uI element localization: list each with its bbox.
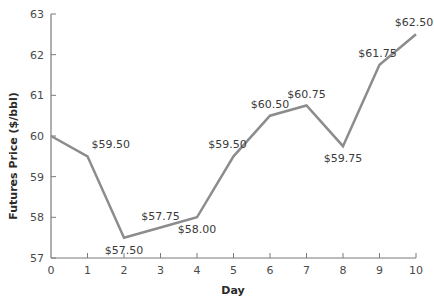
x-tick-label: 2 xyxy=(121,264,128,277)
data-point-label: $59.50 xyxy=(208,138,247,151)
y-tick-label: 59 xyxy=(30,171,44,184)
data-point-label: $58.00 xyxy=(178,223,217,236)
data-point-label: $60.75 xyxy=(287,88,326,101)
x-tick-label: 6 xyxy=(267,264,274,277)
data-point-label: $57.75 xyxy=(141,210,180,223)
data-point-label: $61.75 xyxy=(358,47,397,60)
x-tick-label: 3 xyxy=(157,264,164,277)
y-tick-label: 62 xyxy=(30,49,44,62)
x-tick-label: 9 xyxy=(376,264,383,277)
x-tick-label: 0 xyxy=(48,264,55,277)
y-tick-label: 57 xyxy=(30,252,44,265)
x-tick-label: 1 xyxy=(84,264,91,277)
x-tick-label: 5 xyxy=(230,264,237,277)
data-point-label: $59.75 xyxy=(324,152,363,165)
y-tick-label: 60 xyxy=(30,130,44,143)
x-tick-label: 10 xyxy=(409,264,423,277)
data-point-label: $59.50 xyxy=(92,138,131,151)
data-point-label: $60.50 xyxy=(251,98,290,111)
price-line xyxy=(51,34,416,237)
y-tick-label: 58 xyxy=(30,211,44,224)
data-point-label: $57.50 xyxy=(105,244,144,257)
y-tick-label: 63 xyxy=(30,8,44,21)
data-point-label: $62.50 xyxy=(395,16,434,29)
x-axis-title: Day xyxy=(221,284,244,297)
x-tick-label: 7 xyxy=(303,264,310,277)
data-labels: $59.50$57.50$57.75$58.00$59.50$60.50$60.… xyxy=(92,16,434,256)
y-tick-label: 61 xyxy=(30,89,44,102)
x-tick-label: 8 xyxy=(340,264,347,277)
x-tick-label: 4 xyxy=(194,264,201,277)
y-axis-title: Futures Price ($/bbl) xyxy=(7,92,20,219)
line-chart: 57585960616263 012345678910 $59.50$57.50… xyxy=(0,0,434,305)
